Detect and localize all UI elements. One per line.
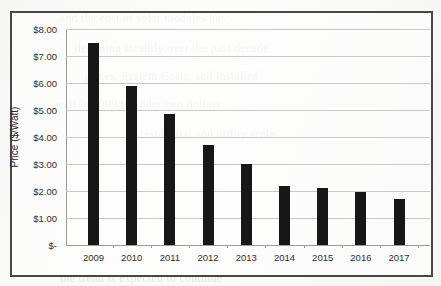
x-axis-tick-label: 2017	[389, 252, 410, 263]
y-axis-tick-label: $2.00	[33, 186, 57, 197]
x-axis-tickmark	[265, 245, 266, 248]
gridline	[66, 110, 430, 111]
x-axis-tickmark	[113, 245, 114, 248]
bar	[126, 86, 137, 245]
gridline	[66, 56, 430, 57]
y-axis-tick-label: $-	[49, 240, 57, 251]
plot-area: $-$1.00$2.00$3.00$4.00$5.00$6.00$7.00$8.…	[66, 29, 430, 245]
x-axis-tick-label: 2014	[274, 252, 295, 263]
bar	[88, 43, 99, 246]
x-axis-tickmark	[151, 245, 152, 248]
x-axis-tickmark	[418, 245, 419, 248]
x-axis-tickmark	[304, 245, 305, 248]
y-axis-tick-label: $5.00	[33, 105, 57, 116]
y-axis-tick-label: $8.00	[33, 24, 57, 35]
gridline	[66, 137, 430, 138]
x-axis-tick-label: 2010	[121, 252, 142, 263]
bar	[164, 114, 175, 245]
y-axis-tick-label: $7.00	[33, 51, 57, 62]
gridline	[66, 83, 430, 84]
x-axis-tick-label: 2015	[312, 252, 333, 263]
y-axis-title: Price ($/Watt)	[9, 107, 20, 168]
y-axis-tick-label: $1.00	[33, 213, 57, 224]
gridline	[66, 29, 430, 30]
x-axis-tickmark	[380, 245, 381, 248]
x-axis-tick-label: 2012	[198, 252, 219, 263]
x-axis-tickmark	[227, 245, 228, 248]
y-axis-tick-label: $4.00	[33, 132, 57, 143]
bar	[241, 164, 252, 245]
gridline	[66, 245, 430, 246]
x-axis-tickmark	[342, 245, 343, 248]
x-axis-tick-label: 2013	[236, 252, 257, 263]
x-axis-tick-label: 2009	[83, 252, 104, 263]
bar	[355, 192, 366, 245]
bar	[317, 188, 328, 245]
bar	[203, 145, 214, 245]
x-axis-tick-label: 2016	[350, 252, 371, 263]
bar	[279, 186, 290, 245]
y-axis-tick-label: $6.00	[33, 78, 57, 89]
x-axis-tickmark	[189, 245, 190, 248]
x-axis-tick-label: 2011	[160, 252, 180, 263]
y-axis-tick-label: $3.00	[33, 159, 57, 170]
bar	[394, 199, 405, 245]
